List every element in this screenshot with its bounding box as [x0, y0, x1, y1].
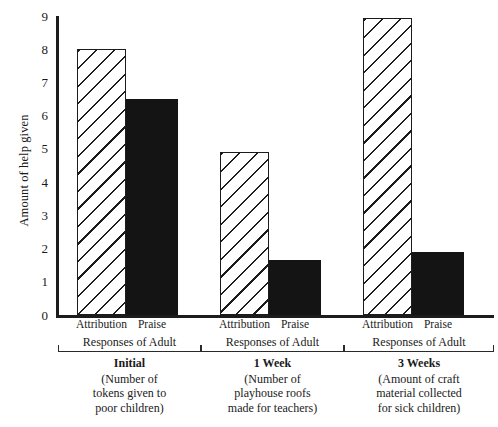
- y-tick-label-9: 9: [26, 10, 48, 23]
- bar-3-weeks-attribution: [363, 18, 412, 315]
- bracket-label: Responses of Adult: [201, 335, 344, 350]
- y-tick-label-4: 4: [26, 176, 48, 189]
- group-caption-line-1: (Number of: [58, 372, 201, 387]
- y-tick-label-7: 7: [26, 76, 48, 89]
- responses-bracket: Responses of Adult: [201, 335, 344, 354]
- bar-chart: Amount of help given 0123456789 Attribut…: [0, 0, 498, 427]
- plot-area: [58, 16, 494, 315]
- group-caption: Initial(Number oftokens given topoor chi…: [58, 356, 201, 415]
- group-caption-line-3: made for teachers): [201, 401, 344, 416]
- y-tick-label-6: 6: [26, 109, 48, 122]
- responses-bracket: Responses of Adult: [58, 335, 201, 354]
- x-axis-group-labels: AttributionPraiseResponses of AdultIniti…: [0, 318, 498, 427]
- group-block-1-week: AttributionPraiseResponses of Adult1 Wee…: [201, 318, 344, 354]
- bracket-tick-right: [493, 345, 494, 352]
- bracket-tick-left: [58, 345, 59, 352]
- y-tick-label-2: 2: [26, 242, 48, 255]
- group-block-initial: AttributionPraiseResponses of AdultIniti…: [58, 318, 201, 354]
- group-caption: 3 Weeks(Amount of craftmaterial collecte…: [344, 356, 494, 415]
- group-block-3-weeks: AttributionPraiseResponses of Adult3 Wee…: [344, 318, 494, 354]
- bracket-label: Responses of Adult: [344, 335, 494, 350]
- group-caption-line-2: tokens given to: [58, 386, 201, 401]
- bar-initial-praise: [126, 99, 178, 315]
- bar-1-week-attribution: [220, 152, 269, 315]
- condition-label-row: AttributionPraise: [58, 318, 201, 335]
- bar-initial-attribution: [77, 49, 126, 315]
- condition-label-row: AttributionPraise: [344, 318, 494, 335]
- y-tick-label-5: 5: [26, 142, 48, 155]
- group-caption-line-2: material collected: [344, 386, 494, 401]
- condition-label-row: AttributionPraise: [201, 318, 344, 335]
- bracket-label: Responses of Adult: [58, 335, 201, 350]
- y-tick-label-8: 8: [26, 43, 48, 56]
- group-caption-title: 3 Weeks: [344, 356, 494, 371]
- group-caption-title: 1 Week: [201, 356, 344, 371]
- group-caption-title: Initial: [58, 356, 201, 371]
- bracket-tick-left: [344, 345, 345, 352]
- group-caption-line-3: poor children): [58, 401, 201, 416]
- y-tick-label-3: 3: [26, 209, 48, 222]
- group-caption-line-2: playhouse roofs: [201, 386, 344, 401]
- group-caption-line-3: for sick children): [344, 401, 494, 416]
- condition-label-praise: Praise: [112, 318, 192, 330]
- bracket-line: [58, 351, 201, 352]
- group-caption-line-1: (Number of: [201, 372, 344, 387]
- responses-bracket: Responses of Adult: [344, 335, 494, 354]
- y-tick-label-1: 1: [26, 275, 48, 288]
- bar-1-week-praise: [269, 260, 321, 315]
- bar-3-weeks-praise: [412, 252, 464, 315]
- bracket-tick-left: [201, 345, 202, 352]
- group-caption: 1 Week(Number ofplayhouse roofsmade for …: [201, 356, 344, 415]
- bracket-line: [201, 351, 344, 352]
- condition-label-praise: Praise: [398, 318, 478, 330]
- group-caption-line-1: (Amount of craft: [344, 372, 494, 387]
- condition-label-praise: Praise: [255, 318, 335, 330]
- bracket-line: [344, 351, 494, 352]
